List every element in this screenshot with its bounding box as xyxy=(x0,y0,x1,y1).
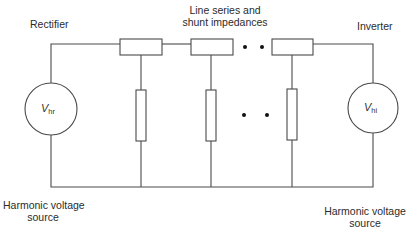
shunt-impedance-2 xyxy=(206,90,216,141)
shunt-ellipsis-dot-2 xyxy=(265,113,269,117)
series-impedance-2 xyxy=(191,39,233,55)
line-impedances-label-line1: Line series and xyxy=(175,4,275,16)
rectifier-source-symbol: Vhr xyxy=(41,102,55,116)
inverter-source-subscript: hi xyxy=(371,106,377,115)
inverter-source-symbol: Vhi xyxy=(364,101,377,115)
series-ellipsis-dot-1 xyxy=(243,45,247,49)
shunt-impedance-1 xyxy=(136,90,146,141)
line-impedances-label: Line series and shunt impedances xyxy=(175,4,275,28)
shunt-impedance-3 xyxy=(287,89,297,140)
series-ellipsis-dot-2 xyxy=(260,45,264,49)
right-source-label-line1: Harmonic voltage xyxy=(322,205,408,217)
rectifier-label: Rectifier xyxy=(30,18,69,30)
series-impedance-3 xyxy=(272,39,313,55)
left-source-label-line1: Harmonic voltage xyxy=(3,199,83,211)
rectifier-source-subscript: hr xyxy=(48,107,55,116)
line-impedances-label-line2: shunt impedances xyxy=(175,16,275,28)
top-wire-left xyxy=(51,44,120,83)
inverter-label: Inverter xyxy=(357,20,393,32)
left-source-label: Harmonic voltage source xyxy=(3,199,83,223)
right-source-label-line2: source xyxy=(322,217,408,229)
left-source-label-line2: source xyxy=(3,211,83,223)
shunt-ellipsis-dot-1 xyxy=(242,113,246,117)
top-wire-right xyxy=(313,44,373,83)
series-impedance-1 xyxy=(120,39,162,55)
right-source-label: Harmonic voltage source xyxy=(322,205,408,229)
